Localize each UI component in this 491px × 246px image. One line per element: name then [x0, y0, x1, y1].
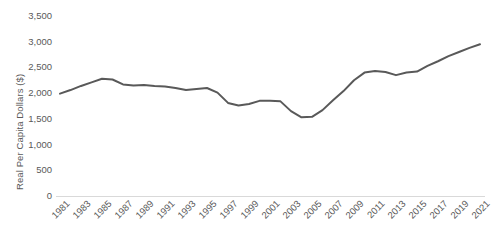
x-axis-tick-labels: 1981198319851987198919911993199519971999…: [0, 198, 491, 246]
y-tick-label: 1,500: [24, 114, 52, 124]
y-tick-label: 2,500: [24, 62, 52, 72]
line-chart: Real Per Capita Dollars ($) 05001,0001,5…: [0, 0, 491, 246]
data-series-line: [60, 44, 480, 117]
y-tick-label: 500: [24, 165, 52, 175]
y-tick-label: 2,000: [24, 88, 52, 98]
y-tick-label: 1,000: [24, 140, 52, 150]
y-tick-label: 3,000: [24, 37, 52, 47]
y-tick-label: 3,500: [24, 11, 52, 21]
